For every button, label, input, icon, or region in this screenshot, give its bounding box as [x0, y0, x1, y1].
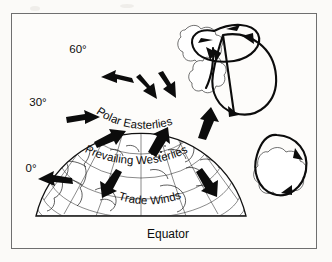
latitude-label-0: 0°: [26, 162, 37, 174]
latitude-label-60: 60°: [69, 43, 86, 55]
arrow-polar-3: [158, 71, 176, 98]
polar-easterlies-label: Polar Easterlies: [95, 105, 174, 131]
latitude-label-30: 30°: [29, 96, 46, 108]
arrow-polar-2: [136, 74, 157, 99]
arrow-polar-1: [101, 70, 134, 83]
svg-text:Polar Easterlies: Polar Easterlies: [95, 105, 174, 131]
wind-belt-diagram: Polar Easterlies Prevailing Westerlies T…: [0, 0, 332, 262]
arrow-westerly-1: [66, 110, 100, 124]
equator-label: Equator: [147, 227, 189, 241]
diagram-canvas: Polar Easterlies Prevailing Westerlies T…: [0, 0, 332, 262]
arrow-westerly-4: [198, 107, 219, 140]
